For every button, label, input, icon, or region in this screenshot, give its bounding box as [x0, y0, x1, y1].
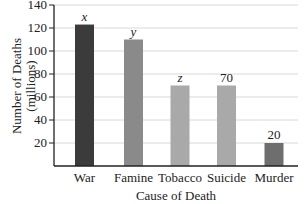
bar-value-label: x	[81, 9, 88, 24]
bar-value-label: 70	[220, 70, 233, 85]
y-tick-label: 20	[34, 135, 47, 150]
bar-value-label: 20	[268, 127, 281, 142]
x-category-label: Tobacco	[158, 170, 202, 185]
bars	[75, 25, 284, 166]
bar-suicide	[217, 86, 236, 167]
y-tick-label: 120	[28, 20, 48, 35]
x-category-label: Suicide	[207, 170, 246, 185]
bar-chart: xyz7020 20406080100120140 WarFamineTobac…	[0, 0, 305, 204]
y-tick-label: 100	[28, 43, 48, 58]
y-axis-subtitle: (millions)	[23, 60, 38, 111]
bar-value-label: y	[129, 24, 137, 39]
bar-war	[75, 25, 94, 166]
x-category-label: Famine	[114, 170, 153, 185]
y-tick-label: 140	[28, 0, 48, 12]
x-category-label: Murder	[255, 170, 295, 185]
bar-murder	[265, 143, 284, 166]
y-tick-label: 40	[34, 112, 47, 127]
bar-value-label: z	[176, 70, 182, 85]
x-axis-categories: WarFamineTobaccoSuicideMurder	[74, 170, 294, 185]
bar-tobacco	[171, 86, 190, 167]
x-category-label: War	[74, 170, 96, 185]
bar-famine	[124, 40, 143, 167]
x-axis-title: Cause of Death	[136, 188, 217, 203]
y-axis-title: Number of Deaths	[9, 38, 24, 134]
